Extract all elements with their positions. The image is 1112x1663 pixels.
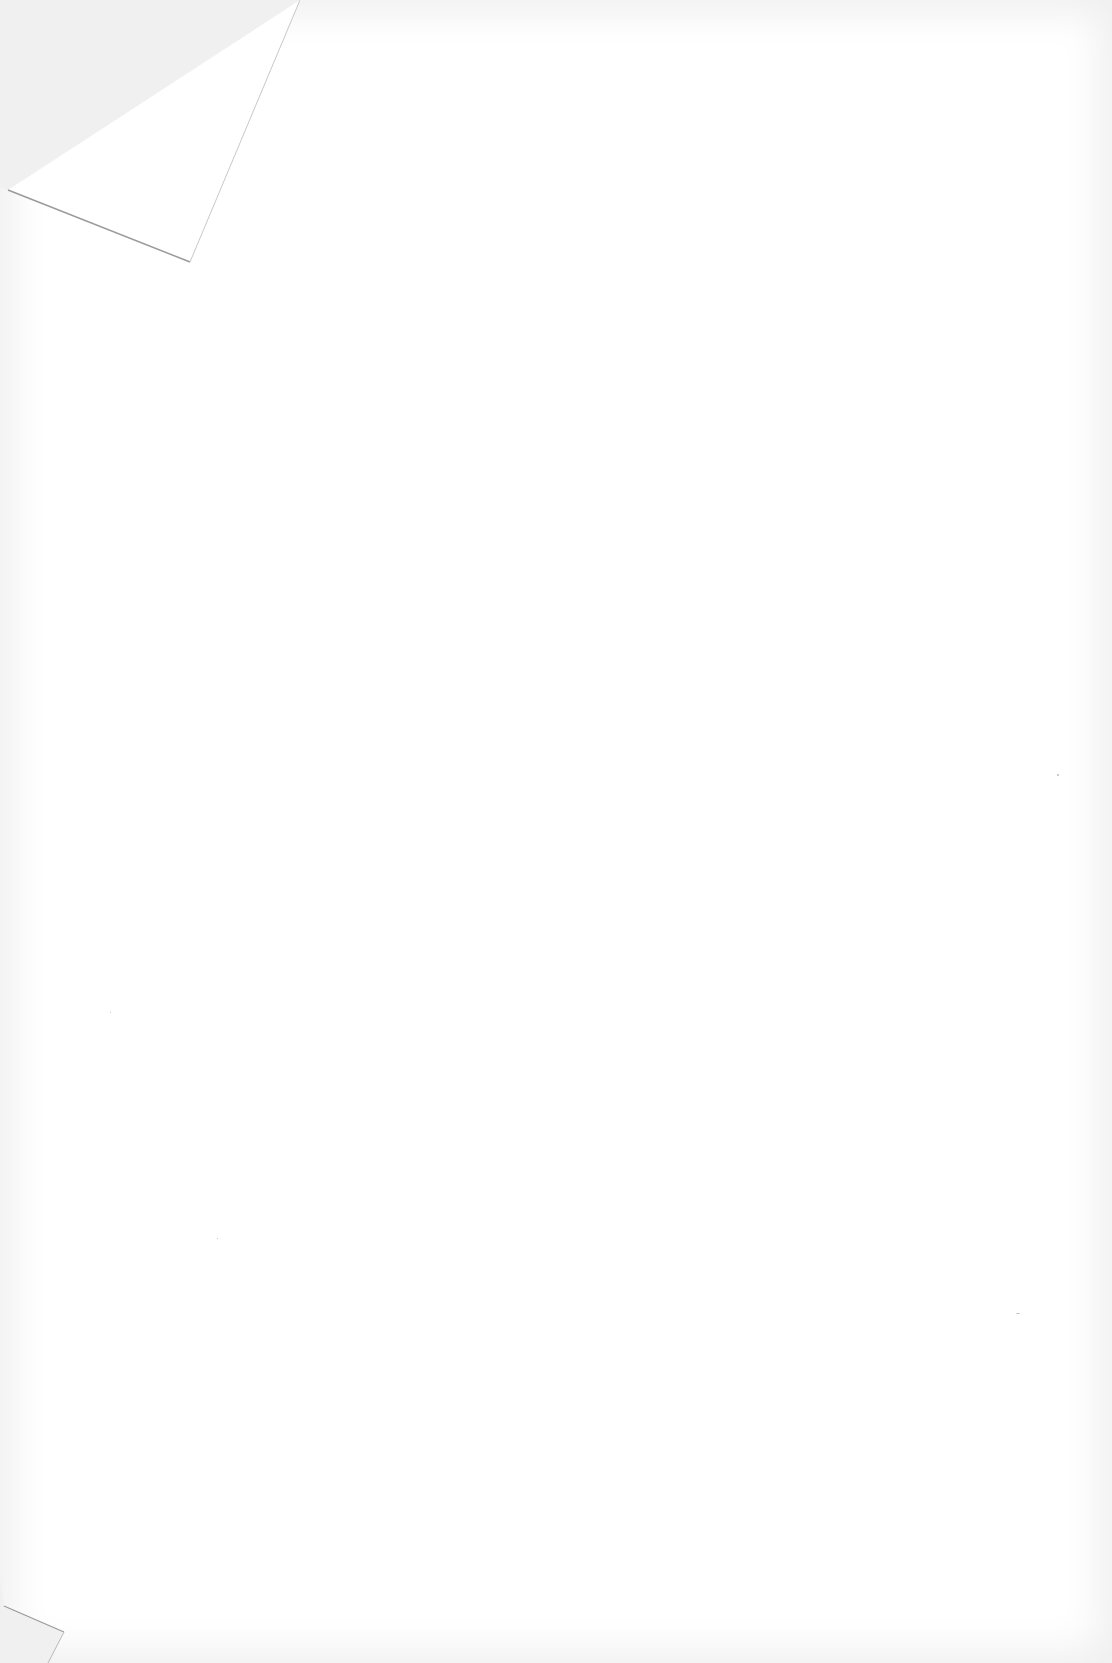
scan-speck: [217, 1238, 218, 1239]
folded-corner-top-left: [0, 0, 300, 270]
scan-speck: [1057, 774, 1059, 776]
scan-speck: [110, 1012, 111, 1013]
blank-page: [0, 0, 1112, 1663]
scan-speck: [1016, 1313, 1020, 1314]
folded-corner-bottom-left: [0, 1580, 80, 1663]
